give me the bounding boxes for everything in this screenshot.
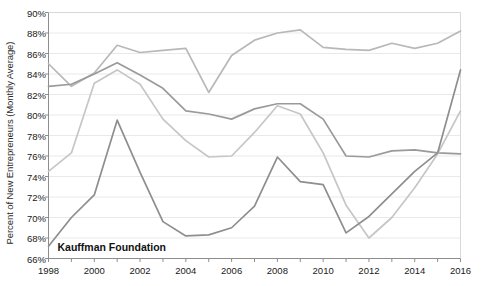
series-lines [49, 30, 461, 246]
kauffman-foundation-watermark: Kauffman Foundation [58, 241, 167, 253]
series-line-3 [49, 70, 461, 238]
grid-lines [49, 13, 461, 239]
tick-marks [45, 13, 461, 263]
series-line-1 [49, 30, 461, 93]
line-chart: Percent of New Entrepreneurs (Monthly Av… [0, 0, 482, 286]
series-line-4 [49, 70, 461, 246]
